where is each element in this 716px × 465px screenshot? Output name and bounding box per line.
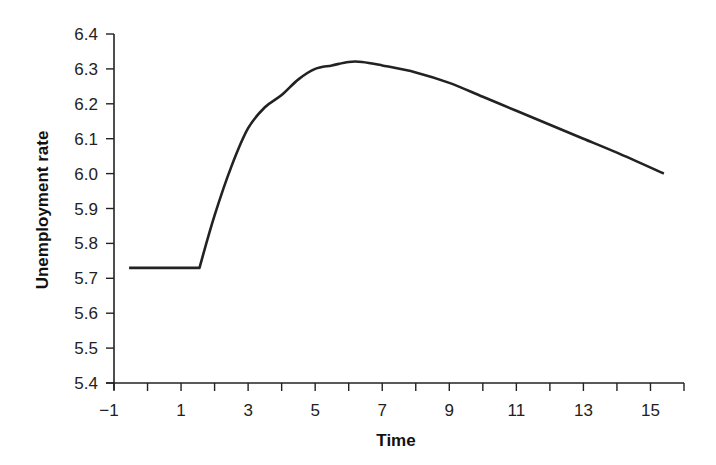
x-tick-label: 13 bbox=[574, 401, 593, 420]
y-tick-label: 6.3 bbox=[74, 60, 98, 79]
x-tick-label: 11 bbox=[508, 401, 526, 420]
x-axis: −113579111315 bbox=[99, 383, 684, 420]
plot-area bbox=[129, 61, 664, 267]
y-axis: 5.45.55.65.75.85.96.06.16.26.36.4 bbox=[74, 25, 114, 393]
x-tick-label: 7 bbox=[378, 401, 387, 420]
y-tick-label: 6.0 bbox=[74, 165, 98, 184]
x-tick-label: 9 bbox=[445, 401, 454, 420]
y-tick-label: 5.8 bbox=[74, 234, 98, 253]
line-chart: 5.45.55.65.75.85.96.06.16.26.36.4 −11357… bbox=[0, 0, 716, 465]
x-tick-label: −1 bbox=[99, 401, 118, 420]
y-axis-title: Unemployment rate bbox=[33, 131, 52, 290]
x-tick-label: 3 bbox=[243, 401, 252, 420]
y-tick-label: 5.5 bbox=[74, 339, 98, 358]
y-tick-label: 6.4 bbox=[74, 25, 98, 44]
y-tick-label: 6.1 bbox=[74, 130, 98, 149]
y-tick-label: 5.6 bbox=[74, 304, 98, 323]
y-tick-label: 5.9 bbox=[74, 200, 98, 219]
x-tick-label: 1 bbox=[176, 401, 185, 420]
x-tick-label: 5 bbox=[310, 401, 319, 420]
y-tick-label: 5.7 bbox=[74, 269, 98, 288]
y-tick-label: 6.2 bbox=[74, 95, 98, 114]
x-tick-label: 15 bbox=[641, 401, 660, 420]
y-tick-label: 5.4 bbox=[74, 374, 98, 393]
x-axis-title: Time bbox=[376, 431, 415, 450]
unemployment-rate-line bbox=[129, 61, 664, 267]
